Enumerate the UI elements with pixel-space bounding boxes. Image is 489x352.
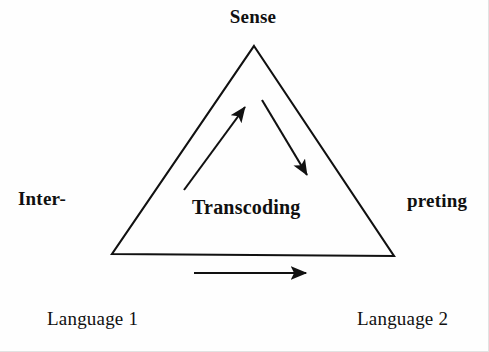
label-language-1: Language 1 [47,309,138,328]
label-preting: preting [407,191,467,210]
label-sense-text: Sense [230,6,276,27]
diagram-graphics [0,0,489,352]
reformulation-arrow [262,100,307,175]
label-transcoding: Transcoding [192,197,301,217]
label-inter: Inter- [18,189,66,208]
diagram-canvas: Sense Inter- preting Transcoding Languag… [0,0,489,352]
label-language-2: Language 2 [357,309,448,328]
label-sense: Sense [0,7,488,26]
comprehension-arrow [184,107,245,190]
interpreting-triangle [112,46,394,256]
